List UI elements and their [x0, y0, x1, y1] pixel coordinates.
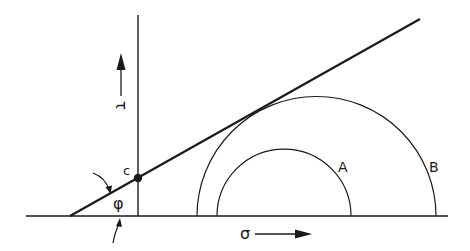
cohesion-label: c [123, 163, 130, 178]
friction-angle-label: φ [113, 194, 124, 213]
failure-envelope-line [70, 19, 420, 216]
phi-lower-arrow-icon [113, 218, 122, 243]
normal-stress-label: σ [240, 224, 250, 243]
circle-b-label: B [429, 159, 439, 175]
cohesion-point [134, 174, 142, 182]
mohr-circle-b [197, 97, 436, 217]
mohr-circle-a [217, 149, 351, 216]
sigma-direction-arrow-icon [255, 230, 312, 239]
shear-stress-label: τ [112, 101, 130, 110]
phi-upper-arrow-icon [93, 173, 112, 194]
tau-direction-arrow-icon [117, 53, 126, 96]
mohr-coulomb-diagram: c φ τ σ A B [0, 0, 470, 251]
circle-a-label: A [338, 159, 348, 175]
